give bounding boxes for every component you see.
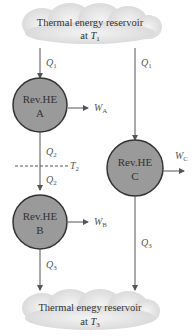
engine-c-label-line2: C: [131, 170, 138, 182]
bottom-reservoir: Thermal enegy reservoir at T3: [22, 289, 160, 330]
flow-label-q3-right: Q3: [141, 237, 152, 250]
engine-a-label-line1: Rev.HE: [23, 93, 58, 105]
engine-a: Rev.HE A: [13, 78, 67, 132]
flow-label-q2-lower: Q2: [46, 174, 57, 187]
flow-label-q3-left: Q3: [46, 259, 57, 272]
flow-label-q1-left: Q1: [46, 57, 57, 70]
engine-b-label-line2: B: [36, 224, 43, 236]
engine-b-label-line1: Rev.HE: [23, 210, 58, 222]
heat-engine-diagram: Thermal energy reservoir at T1 Q1 Rev.HE…: [0, 0, 196, 336]
top-reservoir-label-line1: Thermal energy reservoir: [37, 17, 144, 28]
work-label-c: WC: [175, 150, 188, 163]
engine-b: Rev.HE B: [13, 195, 67, 249]
intermediate-temp-label: T2: [70, 160, 80, 173]
engine-c-circle: [107, 140, 163, 196]
work-label-b: WB: [94, 216, 107, 229]
flow-label-q1-right: Q1: [141, 57, 152, 70]
top-reservoir: Thermal energy reservoir at T1: [22, 3, 162, 44]
engine-a-label-line2: A: [36, 107, 44, 119]
engine-b-circle: [13, 195, 67, 249]
engine-a-circle: [13, 78, 67, 132]
work-label-a: WA: [94, 102, 107, 115]
bottom-reservoir-label-line1: Thermal enegy reservoir: [38, 302, 142, 313]
engine-c-label-line1: Rev.HE: [118, 156, 153, 168]
flow-label-q2-upper: Q2: [46, 146, 57, 159]
engine-c: Rev.HE C: [107, 140, 163, 196]
